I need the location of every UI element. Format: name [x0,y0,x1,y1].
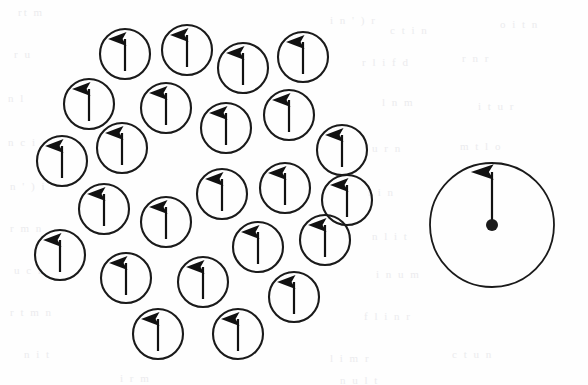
spin-circle [178,257,228,307]
spin-diagram-canvas [0,0,588,385]
spin-circle [317,125,367,175]
spin-circle [197,169,247,219]
spin-circle [35,230,85,280]
spin-circle [201,103,251,153]
spin-circle [269,272,319,322]
spin-circle [37,136,87,186]
spin-circle [322,175,372,225]
spin-circle [100,29,150,79]
spin-circle [264,90,314,140]
spin-circle [218,43,268,93]
spin-circle [97,123,147,173]
spin-circle [79,184,129,234]
spin-circle [162,25,212,75]
spin-circle [64,79,114,129]
spin-circle [300,215,350,265]
spin-circle [141,83,191,133]
figure-root: rt mi n ' ) rc t i no i t nr ur l i f dr… [0,0,588,385]
spin-circle [141,197,191,247]
magnified-spin-center-dot [486,219,498,231]
spin-circle [101,253,151,303]
magnified-spin-group [430,163,554,287]
spin-circle [278,32,328,82]
spin-circle [233,222,283,272]
spin-cluster-group [35,25,372,359]
spin-circle [260,163,310,213]
spin-circle [133,309,183,359]
spin-circle [213,309,263,359]
